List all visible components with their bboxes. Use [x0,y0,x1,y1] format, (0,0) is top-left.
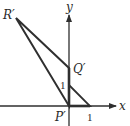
point-q-label: Q′ [73,62,86,76]
unit-triangle [69,85,90,106]
x-unit-label: 1 [87,111,93,123]
x-axis-label: x [119,99,126,113]
point-p-label: P′ [54,110,66,124]
y-axis-label: y [65,0,73,14]
point-r-label: R′ [2,8,15,22]
y-unit-label: 1 [60,79,66,91]
coordinate-diagram: y x R′ Q′ P′ 1 1 [0,0,130,126]
triangle-pqr [16,18,69,106]
